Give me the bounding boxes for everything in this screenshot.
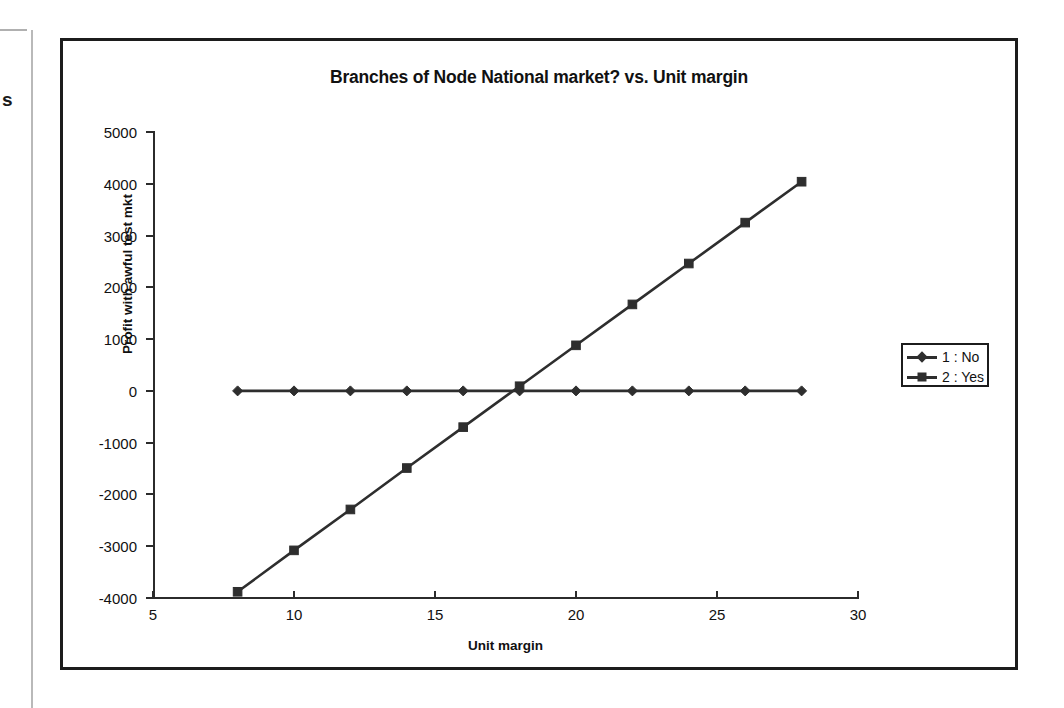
x-axis-title: Unit margin xyxy=(153,638,858,653)
page-edge-horizontal-rule xyxy=(0,29,27,31)
legend-marker-glyph xyxy=(918,373,927,382)
data-point-marker-square xyxy=(797,177,806,186)
legend-label: 2 : Yes xyxy=(942,369,984,385)
x-axis-tick-label: 15 xyxy=(427,606,444,623)
y-axis-tick-label: -4000 xyxy=(99,590,137,607)
data-point-marker-diamond xyxy=(627,386,637,396)
data-point-marker-square xyxy=(403,464,412,473)
y-axis-tick-label: 0 xyxy=(129,382,137,399)
page-edge-text-fragment: s xyxy=(2,89,13,111)
legend-label: 1 : No xyxy=(942,349,979,365)
data-point-marker-square xyxy=(628,300,637,309)
data-point-marker-diamond xyxy=(233,386,243,396)
legend-entry-1: 1 : No xyxy=(907,347,979,367)
data-point-marker-diamond xyxy=(740,386,750,396)
y-axis-tick-label: -2000 xyxy=(99,486,137,503)
data-point-marker-square xyxy=(459,423,468,432)
y-axis-tick-label: 2000 xyxy=(104,279,137,296)
series-plot xyxy=(153,132,858,598)
data-point-marker-square xyxy=(346,505,355,514)
x-axis-tick-label: 25 xyxy=(709,606,726,623)
data-point-marker-diamond xyxy=(289,386,299,396)
y-axis-tick-label: 4000 xyxy=(104,175,137,192)
page-edge-vertical-rule xyxy=(31,30,33,708)
legend-marker-glyph xyxy=(916,351,927,362)
chart-legend: 1 : No2 : Yes xyxy=(901,343,989,387)
legend-marker-diamond-icon xyxy=(907,349,937,365)
data-point-marker-square xyxy=(233,587,242,596)
data-point-marker-square xyxy=(515,382,524,391)
y-axis-tick-label: -1000 xyxy=(99,434,137,451)
legend-marker-square-icon xyxy=(907,369,937,385)
data-point-marker-square xyxy=(685,259,694,268)
data-point-marker-diamond xyxy=(402,386,412,396)
data-point-marker-square xyxy=(741,218,750,227)
chart-frame: Branches of Node National market? vs. Un… xyxy=(60,38,1018,670)
y-axis-tick-label: 3000 xyxy=(104,227,137,244)
x-axis-tick-label: 5 xyxy=(149,606,157,623)
x-axis-tick-label: 30 xyxy=(850,606,867,623)
data-point-marker-diamond xyxy=(345,386,355,396)
legend-entry-2: 2 : Yes xyxy=(907,367,984,387)
x-axis-tick-label: 20 xyxy=(568,606,585,623)
data-point-marker-diamond xyxy=(458,386,468,396)
chart-title: Branches of Node National market? vs. Un… xyxy=(63,67,1015,88)
data-point-marker-diamond xyxy=(571,386,581,396)
y-axis-tick-label: -3000 xyxy=(99,538,137,555)
y-axis-tick-label: 1000 xyxy=(104,331,137,348)
x-axis-tick-label: 10 xyxy=(286,606,303,623)
data-point-marker-square xyxy=(572,341,581,350)
data-point-marker-diamond xyxy=(684,386,694,396)
data-point-marker-square xyxy=(290,546,299,555)
plot-area: 500040003000200010000-1000-2000-3000-400… xyxy=(153,132,858,598)
data-point-marker-diamond xyxy=(797,386,807,396)
y-axis-tick-label: 5000 xyxy=(104,124,137,141)
